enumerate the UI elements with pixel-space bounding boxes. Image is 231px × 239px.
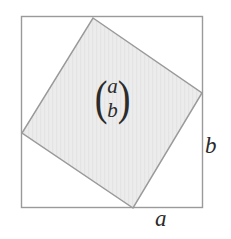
column-vector-label: ( a b ) <box>93 74 132 122</box>
vector-component-b: b <box>107 98 118 122</box>
diagram-canvas: ( a b ) a b <box>0 0 231 239</box>
vector-component-a: a <box>107 74 118 98</box>
bottom-side-label: a <box>155 207 167 230</box>
vector-components: a b <box>107 74 118 122</box>
vector-close-paren: ) <box>118 79 131 117</box>
right-side-label: b <box>205 134 217 157</box>
vector-open-paren: ( <box>95 79 108 117</box>
